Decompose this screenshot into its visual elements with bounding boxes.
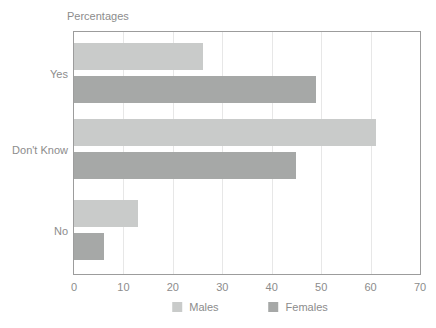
y-axis-label: No xyxy=(0,225,68,237)
x-axis-tick-label: 40 xyxy=(266,281,278,293)
bar-females-don-t-know xyxy=(74,152,296,179)
chart-title: Percentages xyxy=(67,10,129,22)
bar-females-yes xyxy=(74,76,316,103)
plot-area xyxy=(73,31,421,275)
bar-males-no xyxy=(74,200,138,227)
bar-males-yes xyxy=(74,43,203,70)
x-axis-tick-label: 10 xyxy=(117,281,129,293)
bar-chart: Percentages YesDon't KnowNo 010203040506… xyxy=(0,0,436,328)
x-axis-tick-label: 30 xyxy=(216,281,228,293)
legend-item-females: Females xyxy=(269,301,328,313)
y-axis-label: Yes xyxy=(0,68,68,80)
legend-swatch-icon xyxy=(172,302,182,312)
legend-label: Males xyxy=(189,301,218,313)
x-axis-tick-label: 50 xyxy=(315,281,327,293)
x-axis-tick-label: 0 xyxy=(71,281,77,293)
y-axis-label: Don't Know xyxy=(0,144,68,156)
legend: MalesFemales xyxy=(172,301,328,313)
x-axis-tick-label: 60 xyxy=(364,281,376,293)
bar-males-don-t-know xyxy=(74,119,376,146)
legend-label: Females xyxy=(286,301,328,313)
gridline xyxy=(371,32,372,274)
x-axis-tick-label: 20 xyxy=(167,281,179,293)
bar-females-no xyxy=(74,233,104,260)
legend-item-males: Males xyxy=(172,301,218,313)
x-axis-tick-label: 70 xyxy=(414,281,426,293)
legend-swatch-icon xyxy=(269,302,279,312)
gridline xyxy=(321,32,322,274)
